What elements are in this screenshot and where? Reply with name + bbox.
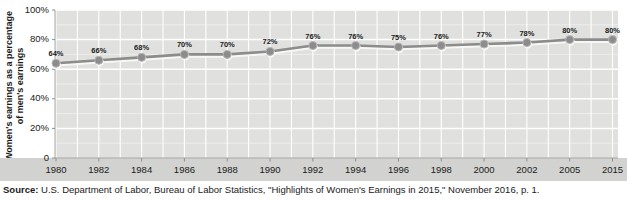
data-point-marker [180,50,188,58]
data-point-label: 64% [48,49,63,58]
x-tick-label: 2005 [559,164,580,175]
y-tick-label: 20% [30,122,50,133]
data-point-marker [266,47,274,55]
data-point-marker [95,56,103,64]
data-point-marker [609,36,617,44]
x-tick-label: 1986 [174,164,195,175]
data-point-label: 66% [91,46,106,55]
x-tick-label: 2002 [516,164,537,175]
data-point-marker [309,42,317,50]
data-point-marker [394,43,402,51]
x-tick-label: 1982 [88,164,109,175]
x-tick-label: 1998 [431,164,452,175]
data-point-marker [223,50,231,58]
x-tick-label: 2015 [602,164,623,175]
data-point-label: 70% [220,40,235,49]
data-point-label: 78% [519,29,534,38]
data-point-label: 76% [305,32,320,41]
x-tick-label: 1988 [217,164,238,175]
earnings-ratio-line-chart-figure: Women's earnings as a percentage of men'… [0,0,627,200]
data-point-label: 70% [177,40,192,49]
x-tick-label: 2000 [474,164,495,175]
data-point-marker [480,40,488,48]
line-chart-canvas: 020%40%60%80%100%19801982198419861988199… [0,0,627,200]
y-tick-label: 0 [44,152,49,163]
data-point-marker [437,42,445,50]
data-point-label: 77% [477,30,492,39]
y-tick-label: 80% [30,33,50,44]
x-tick-label: 1994 [345,164,366,175]
y-tick-label: 100% [25,4,50,15]
data-point-label: 76% [348,32,363,41]
data-point-marker [566,36,574,44]
data-point-label: 75% [391,33,406,42]
data-point-marker [138,53,146,61]
x-tick-label: 1992 [302,164,323,175]
x-tick-label: 1984 [131,164,152,175]
data-point-marker [523,39,531,47]
data-point-label: 76% [434,32,449,41]
x-tick-label: 1990 [259,164,280,175]
source-label: Source: [3,184,38,195]
data-point-label: 80% [605,26,620,35]
x-tick-label: 1980 [45,164,66,175]
data-point-label: 80% [562,26,577,35]
data-point-marker [52,59,60,67]
y-tick-label: 60% [30,63,50,74]
data-point-label: 68% [134,43,149,52]
data-point-label: 72% [263,37,278,46]
data-point-marker [352,42,360,50]
source-text: U.S. Department of Labor, Bureau of Labo… [38,184,539,195]
x-tick-label: 1996 [388,164,409,175]
y-tick-label: 40% [30,92,50,103]
source-note: Source: U.S. Department of Labor, Bureau… [3,184,623,195]
